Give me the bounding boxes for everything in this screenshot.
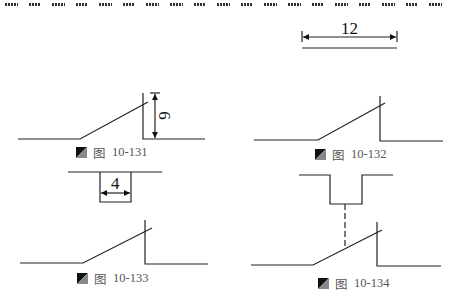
caption-fig-10-132: 图 10-132: [315, 145, 386, 164]
caption-prefix: 图: [93, 143, 106, 162]
caption-number: 10-134: [354, 276, 389, 291]
caption-number: 10-133: [113, 271, 148, 286]
caption-prefix: 图: [332, 145, 345, 164]
figure-marker-icon: [76, 147, 87, 158]
caption-fig-10-131: 图 10-131: [76, 143, 147, 162]
caption-fig-10-133: 图 10-133: [77, 269, 148, 288]
figure-marker-icon: [318, 278, 329, 289]
dimension-label-12: 12: [341, 20, 358, 37]
dimension-label-6: 6: [156, 111, 173, 120]
figure-10-131-profile: [18, 93, 205, 139]
caption-prefix: 图: [94, 269, 107, 288]
figure-marker-icon: [315, 149, 326, 160]
figure-10-134-profile: [251, 175, 441, 266]
figure-marker-icon: [77, 273, 88, 284]
caption-fig-10-134: 图 10-134: [318, 274, 389, 293]
caption-prefix: 图: [335, 274, 348, 293]
caption-number: 10-131: [112, 145, 147, 160]
dimension-label-4: 4: [111, 175, 120, 192]
figure-10-132-profile: [254, 31, 443, 141]
caption-number: 10-132: [351, 147, 386, 162]
